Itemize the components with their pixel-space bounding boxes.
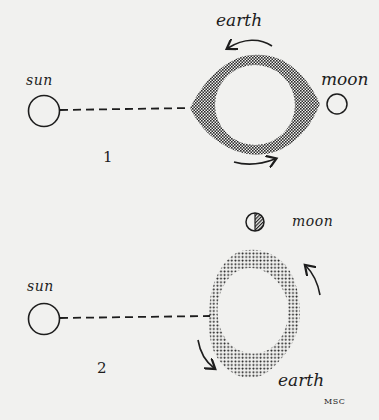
diagram-drawing (0, 0, 379, 420)
sun-earth-line-2 (60, 316, 210, 318)
sun-circle-2 (29, 304, 60, 335)
artist-signature: MSC (324, 398, 345, 406)
tides-diagram: earth sun moon 1 moon sun 2 earth MSC (0, 0, 379, 420)
rotation-arrow-top-1 (228, 40, 272, 48)
panel-number-2: 2 (97, 361, 107, 376)
earth-circle-1 (215, 65, 295, 145)
earth-label-1: earth (216, 12, 262, 29)
panel-2 (29, 213, 321, 378)
rotation-arrow-right-2 (306, 266, 320, 295)
moon-label-1: moon (321, 71, 369, 88)
panel-1 (29, 40, 348, 164)
rotation-arrow-bottom-1 (234, 159, 275, 164)
moon-label-2: moon (292, 214, 333, 228)
sun-circle-1 (29, 96, 60, 127)
panel-number-1: 1 (103, 150, 113, 165)
sun-label-2: sun (27, 279, 54, 293)
sun-earth-line-1 (60, 108, 190, 110)
moon-half-phase-2 (246, 213, 264, 231)
earth-label-2: earth (278, 372, 324, 389)
sun-label-1: sun (26, 73, 53, 87)
moon-circle-1 (327, 94, 347, 114)
